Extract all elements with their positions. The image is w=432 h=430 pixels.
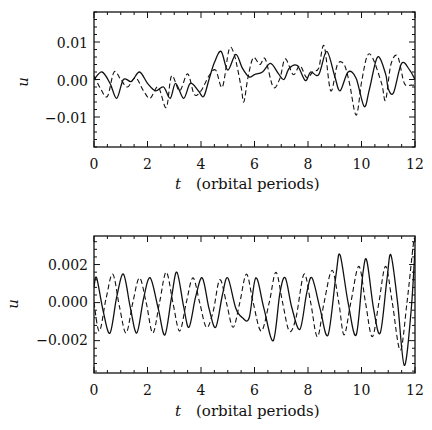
bottom-ytick-label-1: 0.000: [48, 294, 88, 310]
bottom-xtick-label-6: 12: [406, 382, 424, 398]
bottom-dashed-line: [94, 238, 415, 350]
bottom-plot-panel: 0.002 0.000 −0.002 u 0 2 4 6 8 10 12 t (…: [4, 236, 424, 420]
top-xtick-label-3: 6: [250, 156, 259, 172]
top-ytick-label-1: 0.00: [57, 73, 88, 89]
bottom-x-tick-labels: 0 2 4 6 8 10 12: [90, 382, 424, 398]
top-plot-panel: 0.01 0.00 −0.01 u 0 2 4 6 8 10 12 t (orb…: [14, 12, 424, 193]
top-xtick-label-6: 12: [406, 156, 424, 172]
top-solid-line: [94, 51, 415, 106]
bottom-ytick-label-0: 0.002: [48, 257, 88, 273]
top-plot-frame: [94, 12, 415, 147]
bottom-xtick-label-2: 4: [197, 382, 206, 398]
top-xtick-label-2: 4: [197, 156, 206, 172]
figure: 0.01 0.00 −0.01 u 0 2 4 6 8 10 12 t (orb…: [0, 0, 432, 430]
top-xtick-label-4: 8: [304, 156, 313, 172]
top-y-axis-label: u: [14, 77, 32, 87]
top-x-axis-unit: (orbital periods): [196, 175, 320, 193]
top-xtick-label-5: 10: [353, 156, 371, 172]
bottom-xtick-label-4: 8: [304, 382, 313, 398]
bottom-xtick-label-0: 0: [90, 382, 99, 398]
top-xtick-label-0: 0: [90, 156, 99, 172]
top-ytick-label-2: −0.01: [45, 110, 88, 126]
top-x-axis-variable: t: [175, 175, 182, 193]
top-x-tick-labels: 0 2 4 6 8 10 12: [90, 156, 424, 172]
top-plot-curves: [94, 45, 415, 115]
bottom-plot-curves: [94, 238, 415, 365]
bottom-xtick-label-3: 6: [250, 382, 259, 398]
top-ytick-label-0: 0.01: [57, 35, 88, 51]
bottom-y-axis-label: u: [4, 299, 22, 309]
bottom-xtick-label-1: 2: [143, 382, 152, 398]
bottom-x-axis-variable: t: [175, 402, 182, 420]
bottom-xtick-label-5: 10: [353, 382, 371, 398]
top-plot-ticks: [94, 12, 415, 147]
bottom-ytick-label-2: −0.002: [36, 332, 88, 348]
top-dashed-line: [94, 45, 415, 115]
bottom-x-axis-unit: (orbital periods): [196, 402, 320, 420]
top-xtick-label-1: 2: [143, 156, 152, 172]
